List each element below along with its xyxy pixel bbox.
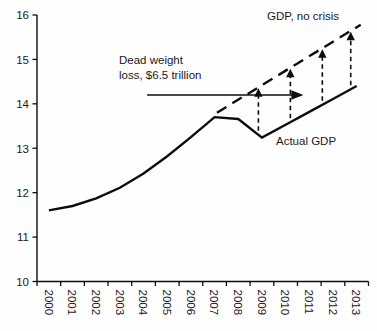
gdp-deadweight-loss-chart: 1011121314151620002001200220032004200520… <box>0 0 377 331</box>
x-tick-label: 2007 <box>208 290 220 316</box>
x-tick-label: 2001 <box>66 290 78 316</box>
y-tick-label: 11 <box>17 231 29 243</box>
gdp-no-crisis-label: GDP, no crisis <box>267 9 339 24</box>
x-tick-label: 2005 <box>161 290 173 316</box>
y-tick-label: 15 <box>16 54 29 66</box>
x-tick-label: 2003 <box>114 290 126 316</box>
deadweight-arrow-head-icon <box>291 90 303 100</box>
x-tick-label: 2008 <box>232 290 244 316</box>
y-tick-label: 16 <box>16 9 29 21</box>
y-tick-label: 14 <box>16 98 29 110</box>
x-tick-label: 2013 <box>350 290 362 316</box>
x-tick-label: 2000 <box>43 290 55 316</box>
y-tick-label: 10 <box>16 276 29 288</box>
x-tick-label: 2004 <box>137 290 149 316</box>
actual-gdp-label: Actual GDP <box>276 134 336 149</box>
x-tick-label: 2012 <box>327 290 339 316</box>
x-tick-label: 2010 <box>279 290 291 316</box>
chart-canvas: 1011121314151620002001200220032004200520… <box>0 0 377 331</box>
x-tick-label: 2002 <box>90 290 102 316</box>
y-tick-label: 12 <box>16 187 29 199</box>
x-tick-label: 2011 <box>303 290 315 315</box>
deadweight-loss-label-line1: Dead weight <box>119 53 201 68</box>
no-crisis-trend-line <box>217 25 361 113</box>
y-tick-label: 13 <box>16 143 29 155</box>
gap-arrow-head-icon <box>318 49 326 58</box>
x-tick-label: 2009 <box>256 290 268 316</box>
deadweight-loss-label: Dead weight loss, $6.5 trillion <box>119 53 201 83</box>
x-tick-label: 2006 <box>185 290 197 316</box>
deadweight-loss-label-line2: loss, $6.5 trillion <box>119 68 201 83</box>
